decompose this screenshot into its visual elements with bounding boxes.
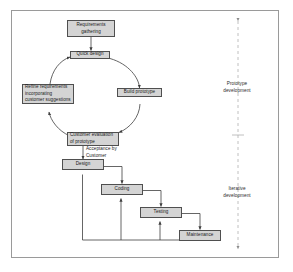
node-coding[interactable]: Coding (101, 184, 143, 195)
node-build-prototype[interactable]: Build prototype (117, 88, 162, 97)
edge-design-to-coding (104, 167, 122, 184)
node-refine-requirements[interactable]: Refine requirements incorporating custom… (22, 84, 74, 104)
edge-coding-to-testing (143, 191, 161, 207)
edge-build-prototype-to-customer-evaluation (119, 104, 140, 133)
phase-label-iterative-development: Iterative development (207, 185, 267, 200)
node-maintenance[interactable]: Maintenance (179, 230, 221, 241)
node-customer-evaluation[interactable]: Customer evaluation of prototype (67, 132, 119, 146)
edge-refine-to-quick-design (50, 57, 70, 84)
node-quick-design[interactable]: Quick design (70, 51, 110, 59)
node-design[interactable]: Design (62, 159, 104, 170)
edge-label-acceptance-by-customer: Acceptance by Customer (86, 146, 130, 160)
edge-testing-to-maintenance (182, 214, 200, 230)
connector-layer (0, 0, 293, 272)
diagram-canvas: Requirements gathering Quick design Buil… (0, 0, 293, 272)
node-requirements-gathering[interactable]: Requirements gathering (67, 20, 115, 37)
node-testing[interactable]: Testing (140, 207, 182, 218)
edge-quick-design-to-build-prototype (110, 59, 140, 89)
phase-divider-line (232, 21, 244, 249)
phase-label-prototype-development: Prototype development (207, 80, 267, 95)
